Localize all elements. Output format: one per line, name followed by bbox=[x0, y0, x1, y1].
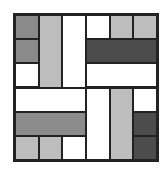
tile-very-dark-3x1 bbox=[85, 38, 158, 64]
tile-white-1x1 bbox=[14, 62, 40, 88]
tiling-grid bbox=[13, 13, 159, 162]
tile-white-1x3 bbox=[61, 14, 87, 89]
tile-white-1x1 bbox=[61, 135, 87, 161]
tile-light-1x3 bbox=[109, 87, 135, 162]
tile-very-dark-1x1 bbox=[132, 111, 158, 137]
tile-dark-1x1 bbox=[14, 38, 40, 64]
tile-light-1x1 bbox=[38, 135, 64, 161]
tile-dark-1x1 bbox=[14, 14, 40, 40]
tile-white-1x3 bbox=[85, 87, 111, 162]
tile-light-1x1 bbox=[14, 135, 40, 161]
tile-white-3x1 bbox=[14, 87, 87, 113]
tile-white-3x1 bbox=[85, 62, 158, 88]
tile-light-1x3 bbox=[38, 14, 64, 89]
tile-white-1x1 bbox=[85, 14, 111, 40]
tile-light-1x1 bbox=[132, 14, 158, 40]
tile-very-dark-1x1 bbox=[132, 135, 158, 161]
tile-medium-3x1 bbox=[14, 111, 87, 137]
tile-white-1x1 bbox=[132, 87, 158, 113]
tile-light-1x1 bbox=[109, 14, 135, 40]
